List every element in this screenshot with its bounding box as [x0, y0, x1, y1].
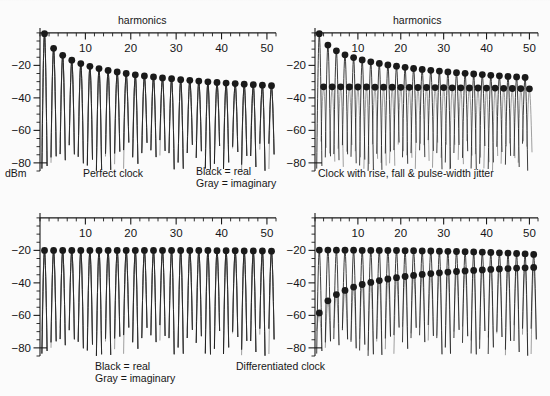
- imaginary-marker: [526, 85, 533, 92]
- real-marker: [168, 75, 175, 82]
- x-tick-label-top-left: 50: [261, 42, 274, 54]
- real-marker: [68, 247, 75, 254]
- real-marker: [530, 251, 537, 258]
- real-markers-top-left: [41, 30, 275, 89]
- imaginary-marker: [522, 264, 529, 271]
- real-marker: [195, 247, 202, 254]
- imaginary-marker: [436, 269, 443, 276]
- imaginary-marker: [393, 274, 400, 281]
- x-tick-label-top-right: 20: [394, 42, 407, 54]
- real-marker: [513, 74, 520, 81]
- real-marker: [325, 42, 332, 49]
- real-marker: [232, 80, 239, 87]
- real-spectral-line: [87, 66, 92, 165]
- y-tick-label-top-right: −40: [286, 92, 306, 104]
- y-tick-label-bottom-right: −40: [286, 277, 306, 289]
- real-marker: [350, 247, 357, 254]
- real-marker: [436, 68, 443, 75]
- real-marker: [77, 60, 84, 67]
- real-spectral-line: [242, 84, 247, 165]
- real-marker: [342, 51, 349, 58]
- real-spectral-line: [96, 69, 101, 171]
- spectrum-figure: 1020304050−20−40−60−801020304050−20−40−6…: [0, 0, 550, 396]
- real-spectral-line: [360, 250, 365, 350]
- real-marker: [259, 248, 266, 255]
- real-marker: [436, 248, 443, 255]
- real-spectral-line: [242, 251, 247, 350]
- real-marker: [462, 70, 469, 77]
- imaginary-marker: [329, 83, 336, 90]
- real-spectral-line: [420, 251, 425, 342]
- top-right-panel-caption: Clock with rise, fall & pulse-width jitt…: [318, 167, 494, 179]
- y-tick-label-top-right: −20: [286, 59, 306, 71]
- real-spectral-line: [96, 250, 101, 356]
- real-marker: [385, 62, 392, 69]
- real-marker: [350, 54, 357, 61]
- imaginary-marker: [367, 279, 374, 286]
- real-marker: [223, 247, 230, 254]
- imaginary-marker: [359, 281, 366, 288]
- real-marker: [205, 78, 212, 85]
- real-marker: [141, 247, 148, 254]
- y-tick-label-bottom-left: −80: [11, 342, 31, 354]
- imaginary-marker: [410, 272, 417, 279]
- real-marker: [241, 248, 248, 255]
- x-tick-label-top-left: 40: [215, 42, 228, 54]
- real-spectral-line: [403, 251, 408, 349]
- real-marker: [96, 247, 103, 254]
- x-tick-label-bottom-right: 50: [523, 227, 536, 239]
- x-tick-label-top-left: 20: [124, 42, 137, 54]
- real-marker: [59, 247, 66, 254]
- real-marker: [359, 247, 366, 254]
- real-marker: [342, 247, 349, 254]
- imaginary-marker: [350, 284, 357, 291]
- imaginary-marker: [453, 268, 460, 275]
- imaginary-marker: [380, 84, 387, 91]
- real-markers-bottom-right: [316, 247, 537, 258]
- real-marker: [123, 247, 130, 254]
- real-marker: [186, 77, 193, 84]
- real-marker: [241, 81, 248, 88]
- real-spectral-line: [133, 250, 138, 348]
- real-marker: [250, 248, 257, 255]
- top-left-panel-caption: Perfect clock: [83, 167, 143, 179]
- real-marker: [232, 247, 239, 254]
- real-spectral-line: [523, 77, 528, 170]
- imaginary-trace-bottom-left: [42, 251, 274, 355]
- real-spectral-line: [60, 55, 65, 160]
- real-spectral-line: [187, 251, 192, 339]
- imaginary-marker: [320, 83, 327, 90]
- real-spectral-line: [377, 250, 382, 355]
- real-spectral-line: [160, 78, 165, 151]
- real-spectral-line: [160, 250, 165, 336]
- imaginary-marker: [466, 85, 473, 92]
- imaginary-marker: [530, 264, 537, 271]
- real-spectral-line: [497, 253, 502, 337]
- x-tick-label-top-right: 50: [523, 42, 536, 54]
- real-trace-bottom-right: [317, 250, 537, 356]
- real-spectral-line: [69, 250, 74, 339]
- real-spectral-line: [142, 250, 147, 338]
- real-marker: [453, 69, 460, 76]
- imaginary-marker: [355, 84, 362, 91]
- real-marker: [470, 71, 477, 78]
- real-spectral-line: [260, 85, 265, 171]
- real-marker: [87, 247, 94, 254]
- x-tick-label-top-left: 30: [170, 42, 183, 54]
- real-spectral-line: [224, 83, 229, 169]
- real-spectral-line: [233, 84, 238, 152]
- imaginary-marker: [423, 84, 430, 91]
- imaginary-marker: [475, 85, 482, 92]
- real-marker: [41, 247, 48, 254]
- imaginary-marker: [505, 265, 512, 272]
- real-spectral-line: [196, 251, 201, 343]
- imaginary-marker: [337, 83, 344, 90]
- imaginary-marker: [389, 84, 396, 91]
- real-marker: [159, 247, 166, 254]
- real-spectral-line: [151, 250, 156, 342]
- real-spectral-line: [78, 64, 83, 164]
- real-marker: [393, 247, 400, 254]
- y-axis-unit-label: dBm: [5, 167, 27, 179]
- real-marker: [59, 52, 66, 59]
- real-marker: [393, 63, 400, 70]
